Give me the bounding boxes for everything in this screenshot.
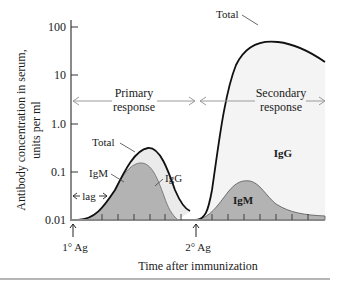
y-axis-label-line2: units per ml <box>29 101 43 159</box>
primary-total-leader <box>120 143 135 152</box>
y-tick-0.01: 0.01 <box>45 213 66 227</box>
secondary-total-leader <box>242 15 258 25</box>
primary-igm-label: IgM <box>89 167 108 179</box>
primary-antigen-label: 1° Ag <box>62 241 88 253</box>
secondary-response-label: Secondary response <box>256 86 307 114</box>
secondary-antigen-label: 2° Ag <box>185 241 211 253</box>
y-tick-1: 1.0 <box>51 117 66 131</box>
svg-text:response: response <box>113 100 155 114</box>
antibody-response-chart: 100 10 1.0 0.1 0.01 Antibody concentrati… <box>0 0 341 285</box>
lag-label: lag <box>82 190 96 202</box>
y-tick-100: 100 <box>48 20 66 34</box>
svg-text:response: response <box>260 100 302 114</box>
primary-total-label: Total <box>92 136 114 148</box>
secondary-antigen-arrow <box>193 224 199 237</box>
y-tick-10: 10 <box>54 68 66 82</box>
x-axis-label: Time after immunization <box>138 259 258 273</box>
primary-antigen-arrow <box>70 224 76 237</box>
y-tick-labels: 100 10 1.0 0.1 0.01 <box>45 20 66 227</box>
y-axis-label: Antibody concentration in serum, units p… <box>14 49 43 210</box>
svg-text:Primary: Primary <box>115 86 154 100</box>
primary-igg-label: IgG <box>165 172 182 184</box>
y-tick-0.1: 0.1 <box>51 165 66 179</box>
primary-response-label: Primary response <box>113 86 155 114</box>
svg-text:Secondary: Secondary <box>256 86 307 100</box>
secondary-igg-label: IgG <box>274 147 293 159</box>
y-axis-label-line1: Antibody concentration in serum, <box>14 49 28 210</box>
secondary-igm-label: IgM <box>233 194 254 206</box>
secondary-total-label: Total <box>216 8 238 20</box>
